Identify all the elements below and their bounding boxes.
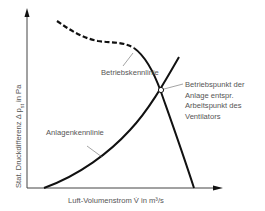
system-curve-leader [87, 146, 102, 157]
system-curve-label: Anlagenkennlinie [46, 128, 104, 139]
operating-point-label: Betriebspunkt der Anlage entspr. Arbeits… [185, 80, 245, 122]
y-axis-label: Stat. Druckdifferenz Δ pst in Pa [14, 85, 25, 188]
operating-point-label-line: Ventilators [185, 112, 245, 123]
y-axis-label-text: Stat. Druckdifferenz Δ p [14, 108, 23, 188]
y-axis-label-subscript: st [19, 104, 25, 108]
y-axis-label-unit: in Pa [14, 85, 23, 104]
operating-point-leader [164, 84, 183, 89]
y-axis-arrow-icon [25, 8, 30, 17]
operating-point-marker [158, 87, 163, 92]
operating-point-label-line: Betriebspunkt der [185, 80, 245, 91]
x-axis-label: Luft-Volumenstrom V̇ in m³/s [68, 196, 164, 205]
x-axis-arrow-icon [213, 186, 223, 191]
fan-curve-leader [123, 53, 133, 66]
operating-point-label-line: Arbeitspunkt des [185, 101, 245, 112]
operating-point-label-line: Anlage entspr. [185, 91, 245, 102]
fan-curve-dashed [57, 21, 134, 48]
fan-curve-label: Betriebskennlinie [101, 68, 159, 79]
